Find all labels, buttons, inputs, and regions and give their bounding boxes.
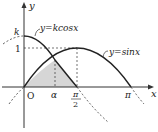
tick-pi-half-den: 2 <box>73 100 78 109</box>
cos-curve-label: y=kcosx <box>39 23 78 33</box>
sin-curve-label: y=sinx <box>108 47 140 57</box>
sin-leader <box>103 51 108 57</box>
diagram: y x O k 1 α π 2 π y=kcosx y=sinx <box>0 0 158 132</box>
tick-pi: π <box>124 90 132 100</box>
tick-alpha: α <box>51 90 57 100</box>
shaded-region <box>24 60 77 87</box>
tick-pi-half-num: π <box>72 90 79 99</box>
kcos-curve-dashed-left <box>3 36 24 44</box>
sin-curve-dashed-left <box>9 87 24 104</box>
y-axis-arrow <box>22 2 27 8</box>
tick-k: k <box>14 27 19 37</box>
y-axis-label: y <box>28 0 35 11</box>
kcos-curve-dashed-right <box>77 87 108 122</box>
origin-label: O <box>27 91 34 101</box>
x-axis-label: x <box>151 88 157 99</box>
tick-one: 1 <box>15 44 21 54</box>
sin-curve-dashed-right <box>131 87 144 104</box>
